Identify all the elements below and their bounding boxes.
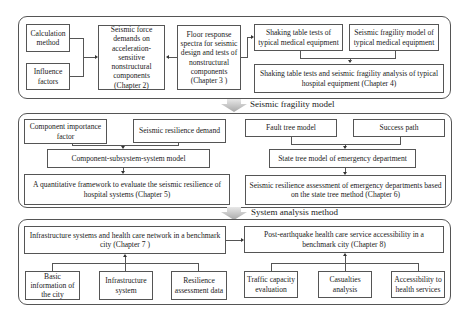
box-fault-tree: Fault tree model [245, 119, 337, 137]
box-state-tree: State tree model of emergency department [269, 149, 416, 168]
box-chapter-7: Infrastructure systems and health care n… [24, 226, 226, 254]
box-chapter-4: Shaking table tests and seismic fragilit… [254, 64, 444, 93]
box-shaking-table-tests: Shaking table tests of typical medical e… [254, 24, 343, 51]
connector-line [70, 38, 83, 39]
connector-line [400, 137, 401, 144]
connector-line [291, 144, 401, 145]
box-accessibility: Accessibility to health services [391, 271, 445, 298]
connector-line [300, 58, 396, 59]
connector-line [169, 57, 177, 58]
arrow-icon [343, 253, 347, 256]
box-influence-factors: Influence factors [26, 63, 70, 90]
connector-line [72, 145, 179, 146]
connector-line [300, 51, 301, 58]
box-chapter-3: Floor response spectra for seismic desig… [177, 25, 241, 90]
connector-line [291, 137, 292, 144]
connector-line [271, 263, 272, 271]
box-chapter-8: Post-earthquake health care service acce… [244, 226, 444, 253]
connector-line [125, 257, 126, 271]
box-traffic-capacity: Traffic capacity evaluation [244, 271, 298, 298]
box-success-path: Success path [353, 119, 445, 137]
box-calculation-method: Calculation method [26, 24, 70, 52]
connector-line [70, 76, 83, 77]
down-arrow-icon [221, 99, 247, 112]
box-css-model: Component-subsystem-system model [47, 149, 210, 168]
box-chapter-6: Seismic resilience assessment of emergen… [245, 175, 446, 205]
connector-line [52, 263, 199, 264]
box-basic-info: Basic information of the city [25, 271, 80, 300]
box-chapter-5: A quantitative framework to evaluate the… [24, 174, 230, 205]
box-fragility-model-equipment: Seismic fragility model of typical medic… [349, 24, 439, 51]
connector-line [83, 57, 95, 58]
box-component-importance: Component importance factor [24, 119, 107, 144]
connector-line [198, 263, 199, 271]
connector-line [350, 58, 351, 61]
connector-line [271, 263, 419, 264]
box-casualties: Casualties analysis [318, 271, 372, 298]
connector-line [52, 263, 53, 271]
arrow-icon [123, 254, 127, 257]
box-infrastructure-system: Infrastructure system [99, 271, 153, 300]
stage-label-system-analysis: System analysis method [251, 207, 338, 217]
box-chapter-2: Seismic force demands on acceleration-se… [98, 25, 165, 90]
connector-line [395, 51, 396, 58]
box-resilience-demand: Seismic resilience demand [133, 119, 226, 143]
connector-line [418, 263, 419, 271]
connector-line [247, 37, 248, 58]
connector-line [226, 240, 241, 241]
stage-label-fragility-model: Seismic fragility model [250, 99, 335, 109]
arrow-icon [166, 55, 169, 59]
box-resilience-data: Resilience assessment data [171, 271, 227, 300]
